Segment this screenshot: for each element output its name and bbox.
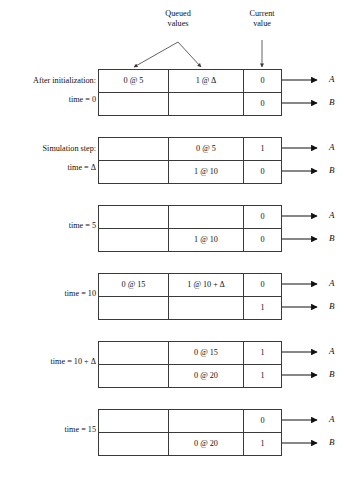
queued-values-callout-label: Queued values	[140, 9, 216, 28]
table-row: 0	[99, 410, 282, 433]
signal-label-a: A	[329, 142, 335, 152]
state-block-time-15: time = 15 0 0 @ 20 1 A B	[0, 409, 353, 456]
signal-label-a: A	[329, 210, 335, 220]
cell-queued1	[99, 433, 169, 456]
block-label-top: Simulation step:	[0, 144, 96, 154]
signal-label-b: B	[329, 437, 335, 447]
cell-queued1	[99, 206, 169, 229]
state-block-simulation-step-delta: Simulation step: time = Δ 0 @ 5 1 1 @ 10…	[0, 137, 353, 184]
cell-current: 0	[244, 70, 282, 93]
cell-queued1: 0 @ 5	[99, 70, 169, 93]
cell-current: 0	[244, 274, 282, 297]
table-row: 0 @ 5 1	[99, 138, 282, 161]
table-row: 0 @ 15 1	[99, 342, 282, 365]
state-table: 0 @ 5 1 @ Δ 0 0	[98, 69, 282, 116]
cell-queued1: 0 @ 15	[99, 274, 169, 297]
cell-queued2: 1 @ 10	[169, 229, 244, 252]
cell-queued1	[99, 93, 169, 116]
current-value-callout-label: Current value	[232, 9, 292, 28]
table-row: 0	[99, 93, 282, 116]
signal-label-b: B	[329, 301, 335, 311]
table-row: 0 @ 15 1 @ 10 + Δ 0	[99, 274, 282, 297]
table-row: 1 @ 10 0	[99, 161, 282, 184]
cell-current: 0	[244, 161, 282, 184]
block-label-top: After initialization:	[0, 76, 96, 86]
signal-label-b: B	[329, 97, 335, 107]
table-row: 1 @ 10 0	[99, 229, 282, 252]
state-table: 0 1 @ 10 0	[98, 205, 282, 252]
table-row: 0 @ 20 1	[99, 433, 282, 456]
block-label-mid: time = 5	[0, 221, 96, 231]
table-row: 1	[99, 297, 282, 320]
cell-queued2: 0 @ 5	[169, 138, 244, 161]
state-block-time-5: time = 5 0 1 @ 10 0 A B	[0, 205, 353, 252]
cell-queued2: 0 @ 20	[169, 365, 244, 388]
simulation-queue-diagram: Queued values Current value	[0, 0, 353, 492]
cell-current: 0	[244, 229, 282, 252]
signal-output-arrows-icon	[281, 80, 317, 443]
queued-values-leader-icon	[134, 42, 201, 67]
signal-label-a: A	[329, 74, 335, 84]
signal-label-a: A	[329, 278, 335, 288]
signal-label-b: B	[329, 369, 335, 379]
cell-current: 1	[244, 365, 282, 388]
cell-queued1	[99, 365, 169, 388]
cell-queued1	[99, 297, 169, 320]
signal-label-b: B	[329, 165, 335, 175]
table-row: 0	[99, 206, 282, 229]
cell-current: 1	[244, 433, 282, 456]
cell-queued2: 1 @ Δ	[169, 70, 244, 93]
block-label-bottom: time = 0	[0, 95, 96, 105]
state-block-time-10: time = 10 0 @ 15 1 @ 10 + Δ 0 1 A B	[0, 273, 353, 320]
cell-queued2: 0 @ 20	[169, 433, 244, 456]
cell-queued2	[169, 410, 244, 433]
cell-queued1	[99, 229, 169, 252]
state-table: 0 @ 15 1 @ 10 + Δ 0 1	[98, 273, 282, 320]
state-block-time-10-delta: time = 10 + Δ 0 @ 15 1 0 @ 20 1 A B	[0, 341, 353, 388]
cell-queued2: 1 @ 10	[169, 161, 244, 184]
state-table: 0 @ 15 1 0 @ 20 1	[98, 341, 282, 388]
state-table: 0 0 @ 20 1	[98, 409, 282, 456]
block-label-mid: time = 10 + Δ	[0, 357, 96, 367]
state-table: 0 @ 5 1 1 @ 10 0	[98, 137, 282, 184]
signal-label-a: A	[329, 346, 335, 356]
cell-current: 1	[244, 138, 282, 161]
cell-queued2: 0 @ 15	[169, 342, 244, 365]
cell-queued1	[99, 138, 169, 161]
cell-queued1	[99, 342, 169, 365]
cell-queued1	[99, 410, 169, 433]
cell-queued2	[169, 206, 244, 229]
block-label-bottom: time = Δ	[0, 163, 96, 173]
table-row: 0 @ 5 1 @ Δ 0	[99, 70, 282, 93]
block-label-mid: time = 15	[0, 425, 96, 435]
cell-current: 0	[244, 410, 282, 433]
cell-current: 0	[244, 206, 282, 229]
state-block-after-initialization: After initialization: time = 0 0 @ 5 1 @…	[0, 69, 353, 116]
block-label-mid: time = 10	[0, 289, 96, 299]
table-row: 0 @ 20 1	[99, 365, 282, 388]
cell-current: 1	[244, 342, 282, 365]
signal-label-b: B	[329, 233, 335, 243]
cell-queued2	[169, 297, 244, 320]
cell-queued2	[169, 93, 244, 116]
cell-current: 1	[244, 297, 282, 320]
signal-label-a: A	[329, 414, 335, 424]
cell-queued2: 1 @ 10 + Δ	[169, 274, 244, 297]
cell-queued1	[99, 161, 169, 184]
cell-current: 0	[244, 93, 282, 116]
